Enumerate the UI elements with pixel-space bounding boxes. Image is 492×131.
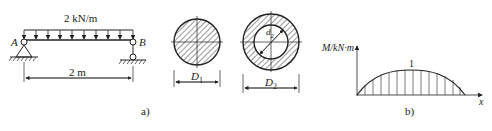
inner-diameter-label: d2 [266,28,274,40]
support-b-label: B [139,37,146,48]
peak-label: 1 [409,59,414,69]
support-a-label: A [11,37,18,48]
load-label: 2 kN/m [64,13,97,24]
d2-label: D2 [265,77,277,91]
caption-b: b) [405,106,414,117]
x-axis-label: x [479,97,483,107]
y-axis-label: M/kN·m [322,43,354,53]
caption-a: a) [141,106,150,117]
d1-label: D1 [191,71,203,85]
distributed-load-arrows [24,30,133,39]
span-label: 2 m [69,67,86,78]
moment-diagram [357,46,482,96]
